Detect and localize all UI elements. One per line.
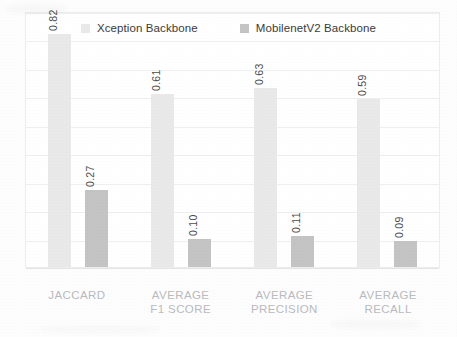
category-axis: JACCARDAVERAGEF1 SCOREAVERAGEPRECISIONAV… [25,288,440,316]
bar-value-label: 0.09 [393,217,405,239]
bar-wrapper: 0.63 [254,13,277,267]
bar-xception[interactable] [48,34,71,267]
bar-group: 0.610.10 [129,13,232,267]
category-label: JACCARD [25,288,129,316]
bar-group: 0.590.09 [336,13,439,267]
chart-legend: Xception Backbone MobilenetV2 Backbone [0,22,457,34]
bar-xception[interactable] [254,88,277,267]
category-label-line: AVERAGE [233,288,337,302]
bar-wrapper: 0.61 [151,13,174,267]
plot-area: 0.820.270.610.100.630.110.590.09 [25,12,440,268]
bar-mobilenetv2[interactable] [394,241,417,267]
bar-wrapper: 0.11 [291,13,314,267]
bar-wrapper: 0.59 [357,13,380,267]
bar-value-label: 0.63 [253,63,265,85]
bar-mobilenetv2[interactable] [291,236,314,267]
category-label-line: JACCARD [25,288,129,302]
bar-wrapper: 0.27 [85,13,108,267]
category-label-line: AVERAGE [336,288,440,302]
category-label-line: AVERAGE [129,288,233,302]
bar-wrapper: 0.10 [188,13,211,267]
bar-value-label: 0.59 [356,75,368,97]
axis-baseline [26,268,439,269]
bar-wrapper: 0.09 [394,13,417,267]
bar-value-label: 0.10 [187,214,199,236]
legend-item-mobilenetv2[interactable]: MobilenetV2 Backbone [240,22,376,34]
bar-chart: Xception Backbone MobilenetV2 Backbone 0… [0,0,457,337]
bar-value-label: 0.11 [290,212,302,233]
legend-swatch-icon-xception [81,24,90,33]
bar-group: 0.820.27 [26,13,129,267]
bar-wrapper: 0.82 [48,13,71,267]
category-label-line: F1 SCORE [129,302,233,316]
bar-value-label: 0.61 [150,69,162,91]
category-label-line: PRECISION [233,302,337,316]
legend-label-mobilenetv2: MobilenetV2 Backbone [256,22,376,34]
bar-xception[interactable] [357,99,380,267]
bar-mobilenetv2[interactable] [85,190,108,267]
bar-groups: 0.820.270.610.100.630.110.590.09 [26,13,439,267]
scan-artifact [330,320,420,329]
bar-xception[interactable] [151,94,174,268]
legend-swatch-icon-mobilenetv2 [240,24,249,33]
category-label-line: RECALL [336,302,440,316]
bar-value-label: 0.27 [84,166,96,188]
category-label: AVERAGEF1 SCORE [129,288,233,316]
category-label: AVERAGERECALL [336,288,440,316]
bar-group: 0.630.11 [233,13,336,267]
category-label: AVERAGEPRECISION [233,288,337,316]
legend-item-xception[interactable]: Xception Backbone [81,22,198,34]
bar-mobilenetv2[interactable] [188,239,211,267]
legend-label-xception: Xception Backbone [97,22,198,34]
scan-artifact [40,326,160,333]
